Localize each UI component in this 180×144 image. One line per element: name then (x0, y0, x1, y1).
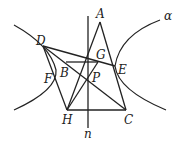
geometry-figure: A α D G E F B P H C n (0, 0, 180, 144)
label-F: F (43, 72, 53, 86)
label-C: C (124, 113, 133, 127)
label-D: D (35, 34, 46, 48)
label-B: B (59, 66, 69, 80)
label-A: A (95, 7, 105, 21)
label-G: G (96, 48, 106, 62)
label-P: P (91, 71, 101, 85)
label-alpha: α (164, 9, 172, 23)
label-E: E (117, 63, 127, 77)
label-n: n (84, 127, 92, 141)
label-H: H (61, 113, 73, 127)
